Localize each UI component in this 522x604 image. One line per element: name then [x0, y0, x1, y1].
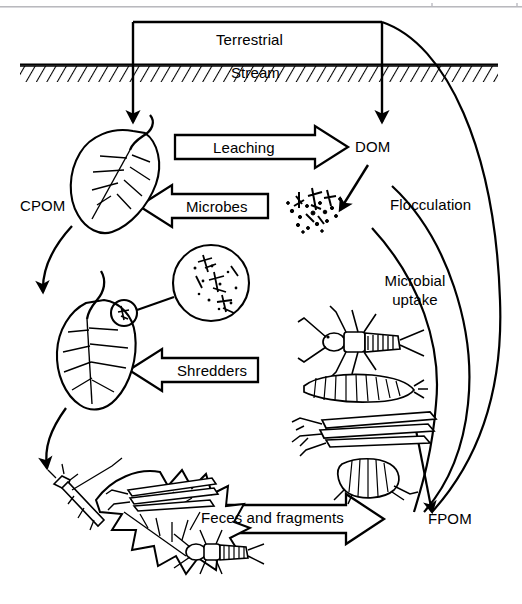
arrow-leaf2-down-to-detritus — [46, 408, 66, 468]
arrow-label-feces-and-fragments: Feces and fragments — [201, 509, 344, 526]
arrow-cpom-down-to-leaf2 — [43, 226, 72, 292]
figure-canvas: Terrestrial Stream DOM CPOM FPOM Leachin… — [0, 0, 522, 604]
organism-stonefly-nymph — [298, 306, 424, 378]
pool-label-dom: DOM — [355, 138, 390, 155]
arrow-label-shredders: Shredders — [177, 362, 247, 379]
arrow-dom-to-floc — [340, 165, 368, 210]
curve-label-microbial-uptake-line2: uptake — [370, 291, 460, 308]
magnifier-detail-circle — [173, 245, 249, 321]
magnifier-callout — [111, 245, 249, 326]
organism-caddisfly-stick-case — [292, 412, 436, 456]
curve-label-microbial-uptake-line1: Microbial — [370, 272, 460, 289]
magnifier-connector — [137, 297, 174, 310]
organism-cranefly-larva — [304, 374, 428, 402]
pool-label-fpom: FPOM — [428, 510, 472, 527]
arrow-label-microbes: Microbes — [186, 198, 248, 215]
leaf-conditioned — [57, 271, 136, 410]
zone-label-terrestrial: Terrestrial — [216, 31, 283, 48]
curve-label-flocculation: Flocculation — [390, 196, 471, 213]
curve-flocculation-to-fpom — [392, 186, 469, 512]
arrow-label-leaching: Leaching — [213, 139, 275, 156]
zone-label-stream: Stream — [231, 64, 280, 81]
leaf-cpom-intact — [71, 115, 159, 233]
flocculated-particles — [287, 188, 342, 233]
pool-label-cpom: CPOM — [20, 197, 65, 214]
